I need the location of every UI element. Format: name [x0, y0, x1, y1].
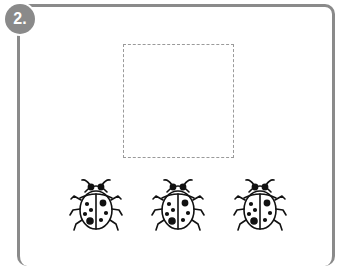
exercise-number-badge: 2.: [5, 4, 35, 34]
ladybug-icon: [232, 176, 288, 234]
ladybug-icon: [68, 176, 124, 234]
ladybug-icon: [150, 176, 206, 234]
drawing-area[interactable]: [123, 44, 234, 158]
